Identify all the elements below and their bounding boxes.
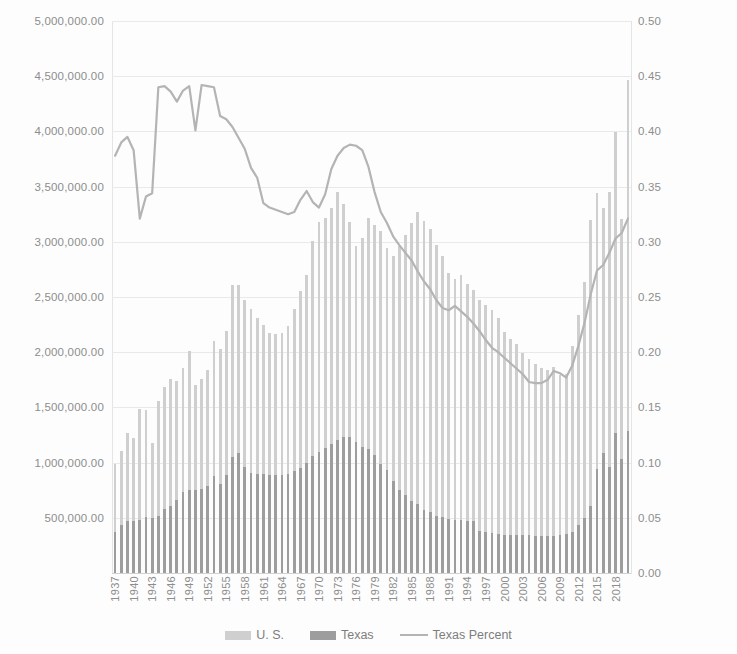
y-axis-left-tick-label: 1,000,000.00 [34, 457, 104, 469]
x-axis-tick-label: 1937 [109, 576, 121, 602]
line-texas-percent [115, 85, 628, 383]
y-axis-right-tick-label: 0.50 [638, 15, 661, 27]
x-axis-tick-label: 2009 [554, 576, 566, 602]
y-axis-right-tick-label: 0.25 [638, 291, 661, 303]
x-axis-tick-label: 1982 [387, 576, 399, 602]
y-axis-right-tick-label: 0.05 [638, 512, 661, 524]
y-axis-left-tick-label: 1,500,000.00 [34, 401, 104, 413]
x-axis-tick-label: 1994 [461, 576, 473, 602]
bar-swatch-icon [310, 631, 336, 640]
y-axis-left-tick-label: 500,000.00 [44, 512, 104, 524]
plot-area [112, 21, 631, 573]
x-axis-tick-label: 2000 [499, 576, 511, 602]
legend-item-label: U. S. [256, 628, 284, 642]
x-axis-tick-label: 1970 [313, 576, 325, 602]
x-axis-tick-label: 1961 [258, 576, 270, 602]
x-axis-tick-label: 1952 [202, 576, 214, 602]
y-axis-left-tick-label: 4,000,000.00 [34, 125, 104, 137]
x-axis-tick-label: 1976 [350, 576, 362, 602]
chart-container: 500,000.001,000,000.001,500,000.002,000,… [0, 0, 737, 654]
y-axis-left-tick-label: 3,500,000.00 [34, 181, 104, 193]
x-axis-tick-label: 1955 [220, 576, 232, 602]
x-axis-tick-label: 1973 [332, 576, 344, 602]
x-axis-tick-label: 2012 [573, 576, 585, 602]
x-axis-tick-label: 1979 [369, 576, 381, 602]
x-axis-tick-label: 1967 [295, 576, 307, 602]
y-axis-right: 0.000.050.100.150.200.250.300.350.400.45… [638, 0, 698, 654]
y-axis-right-tick-label: 0.15 [638, 401, 661, 413]
x-axis-tick-label: 1964 [276, 576, 288, 602]
x-axis-tick-label: 1988 [424, 576, 436, 602]
y-axis-left-tick-label: 5,000,000.00 [34, 15, 104, 27]
y-axis-right-tick-label: 0.10 [638, 457, 661, 469]
x-axis-tick-label: 1946 [165, 576, 177, 602]
x-axis-tick-label: 2003 [517, 576, 529, 602]
x-axis-tick-label: 1985 [406, 576, 418, 602]
x-axis-tick-label: 2018 [610, 576, 622, 602]
y-axis-right-tick-label: 0.45 [638, 70, 661, 82]
x-axis-tick-label: 1958 [239, 576, 251, 602]
legend-item[interactable]: Texas [310, 628, 374, 642]
x-axis-line [112, 573, 631, 574]
legend-item[interactable]: Texas Percent [400, 628, 512, 642]
x-axis-tick-label: 1949 [183, 576, 195, 602]
legend-item[interactable]: U. S. [225, 628, 284, 642]
legend-item-label: Texas Percent [433, 628, 512, 642]
legend-item-label: Texas [341, 628, 374, 642]
chart-legend: U. S.TexasTexas Percent [0, 624, 737, 646]
x-axis-tick-label: 1943 [146, 576, 158, 602]
x-axis-tick-label: 1997 [480, 576, 492, 602]
y-axis-left-tick-label: 4,500,000.00 [34, 70, 104, 82]
line-swatch-icon [400, 634, 428, 636]
y-axis-right-tick-label: 0.00 [638, 567, 661, 579]
x-axis-tick-label: 1940 [128, 576, 140, 602]
y-axis-left: 500,000.001,000,000.001,500,000.002,000,… [0, 0, 104, 654]
series-line-texas-percent [112, 21, 631, 573]
x-axis: 1937194019431946194919521955195819611964… [112, 576, 631, 620]
y-axis-left-tick-label: 2,000,000.00 [34, 346, 104, 358]
y-axis-right-tick-label: 0.20 [638, 346, 661, 358]
x-axis-tick-label: 2006 [536, 576, 548, 602]
y-axis-right-tick-label: 0.40 [638, 125, 661, 137]
right-axis-line [631, 21, 632, 574]
y-axis-left-tick-label: 2,500,000.00 [34, 291, 104, 303]
x-axis-tick-label: 1991 [443, 576, 455, 602]
x-axis-tick-label: 2015 [591, 576, 603, 602]
y-axis-right-tick-label: 0.30 [638, 236, 661, 248]
y-axis-right-tick-label: 0.35 [638, 181, 661, 193]
y-axis-left-tick-label: 3,000,000.00 [34, 236, 104, 248]
bar-swatch-icon [225, 631, 251, 640]
